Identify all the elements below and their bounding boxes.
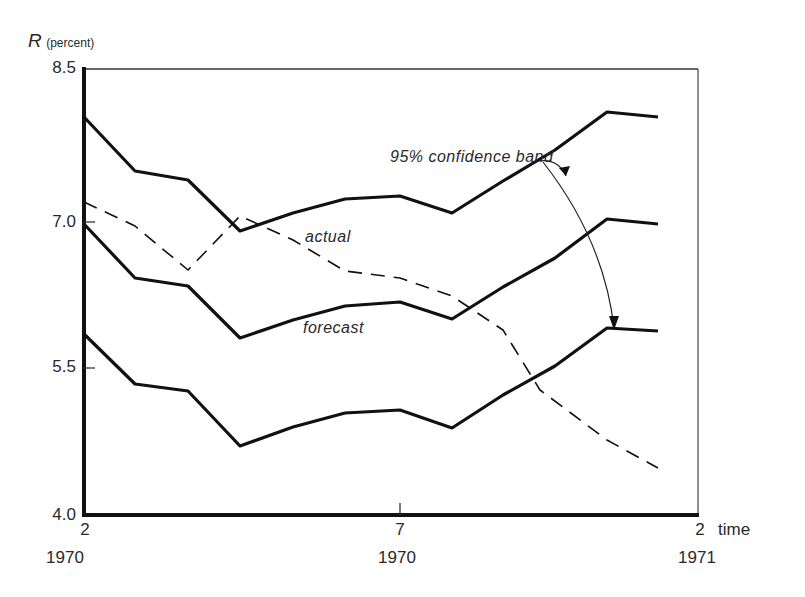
y-tick-7-0: 7.0: [16, 212, 76, 232]
y-tick-5-5: 5.5: [16, 357, 76, 377]
actual-line: [84, 202, 658, 468]
confidence-band-annotation: 95% confidence band: [390, 148, 553, 166]
forecast-annotation: forecast: [303, 319, 364, 337]
y-axis-symbol: R: [28, 30, 42, 51]
x-tick-month-1: 2: [55, 520, 115, 540]
plot-frame: [82, 67, 699, 517]
chart-canvas: [0, 0, 805, 597]
x-tick-year-3: 1971: [667, 548, 727, 568]
actual-annotation: actual: [305, 228, 351, 246]
y-tick-8-5: 8.5: [16, 58, 76, 78]
forecast-line: [84, 219, 658, 338]
confidence-band-arrows: [538, 161, 614, 328]
axis-ticks: [84, 222, 400, 515]
lower-confidence-band-line: [84, 328, 658, 446]
x-tick-year-1: 1970: [35, 548, 95, 568]
upper-confidence-band-line: [84, 112, 658, 231]
x-tick-year-2: 1970: [367, 548, 427, 568]
y-axis-unit: (percent): [46, 36, 94, 50]
x-tick-month-2: 7: [370, 520, 430, 540]
x-axis-title: time: [718, 520, 750, 540]
y-axis-label: R (percent): [28, 30, 94, 52]
